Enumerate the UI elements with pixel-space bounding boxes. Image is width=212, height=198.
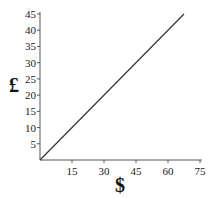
y-tick-label: 45 bbox=[25, 8, 37, 20]
y-tick-label: 15 bbox=[25, 105, 37, 117]
data-line bbox=[40, 14, 184, 160]
y-tick-label: 40 bbox=[25, 24, 37, 36]
chart-canvas: 153045607551015202530354045 $ £ bbox=[0, 0, 212, 198]
x-tick-label: 60 bbox=[163, 165, 175, 177]
series-line bbox=[40, 14, 184, 160]
y-tick-label: 5 bbox=[31, 138, 37, 150]
y-tick-label: 20 bbox=[25, 89, 37, 101]
y-tick-label: 35 bbox=[25, 40, 37, 52]
y-tick-label: 25 bbox=[25, 73, 37, 85]
x-tick-label: 15 bbox=[67, 165, 79, 177]
y-tick-label: 10 bbox=[25, 122, 37, 134]
x-axis-label: $ bbox=[115, 174, 125, 196]
x-tick-label: 45 bbox=[131, 165, 143, 177]
y-tick-label: 30 bbox=[25, 57, 37, 69]
x-tick-label: 30 bbox=[99, 165, 111, 177]
y-axis-label: £ bbox=[9, 74, 19, 96]
axes: 153045607551015202530354045 bbox=[25, 8, 206, 177]
x-tick-label: 75 bbox=[195, 165, 207, 177]
